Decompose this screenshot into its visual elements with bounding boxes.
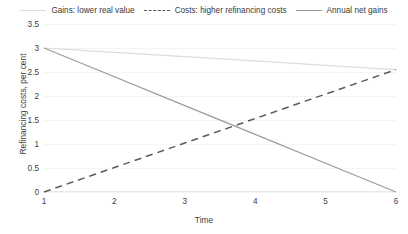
y-tick-label: 0.5	[28, 164, 39, 173]
legend-label-annual-net-gains: Annual net gains	[327, 6, 388, 15]
x-tick-label: 3	[183, 197, 188, 206]
series-lines	[44, 24, 396, 192]
legend-label-gains: Gains: lower real value	[51, 6, 134, 15]
legend-item-gains: Gains: lower real value	[20, 6, 134, 15]
y-tick-label: 3	[34, 44, 39, 53]
legend-line-swatch-net-icon	[296, 7, 322, 14]
chart-legend: Gains: lower real value Costs: higher re…	[0, 2, 408, 18]
series-line	[44, 70, 396, 192]
y-axis-title: Refinancing costs, per cent	[18, 29, 28, 179]
gridline	[44, 192, 396, 193]
x-tick-label: 6	[394, 197, 399, 206]
series-line	[44, 48, 396, 70]
legend-line-swatch-costs-icon	[144, 7, 170, 14]
y-tick-label: 2.5	[28, 68, 39, 77]
y-tick-label: 1	[34, 140, 39, 149]
legend-label-costs: Costs: higher refinancing costs	[175, 6, 287, 15]
y-axis-title-wrap: Refinancing costs, per cent	[0, 18, 14, 190]
legend-item-annual-net-gains: Annual net gains	[296, 6, 388, 15]
x-tick-label: 2	[112, 197, 117, 206]
x-tick-label: 1	[42, 197, 47, 206]
y-tick-label: 1.5	[28, 116, 39, 125]
line-chart: Gains: lower real value Costs: higher re…	[0, 0, 408, 234]
y-tick-label: 0	[34, 188, 39, 197]
plot-area: 00.511.522.533.5 123456	[44, 24, 396, 192]
series-line	[44, 48, 396, 192]
x-tick-label: 5	[323, 197, 328, 206]
y-tick-label: 3.5	[28, 20, 39, 29]
x-tick-label: 4	[253, 197, 258, 206]
x-axis-title: Time	[0, 215, 408, 225]
legend-item-costs: Costs: higher refinancing costs	[144, 6, 287, 15]
legend-line-swatch-gains-icon	[20, 7, 46, 14]
y-tick-label: 2	[34, 92, 39, 101]
